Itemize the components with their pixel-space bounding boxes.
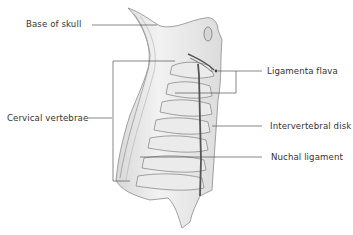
label-nuchal-ligament: Nuchal ligament xyxy=(271,152,343,162)
label-cervical-vertebrae: Cervical vertebrae xyxy=(7,113,88,123)
label-base-of-skull: Base of skull xyxy=(26,19,81,29)
label-ligamenta-flava: Ligamenta flava xyxy=(267,66,338,76)
occipital-bone xyxy=(204,27,212,41)
label-intervertebral-disk: Intervertebral disk xyxy=(270,121,351,131)
anatomy-diagram: Base of skull Cervical vertebrae Ligamen… xyxy=(0,0,353,235)
